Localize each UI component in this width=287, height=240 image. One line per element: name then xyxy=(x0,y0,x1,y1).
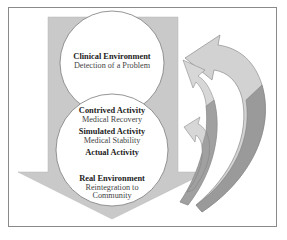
stage-simulated-activity: Simulated Activity Medical Stability xyxy=(62,128,162,145)
stage-clinical-environment: Clinical Environment Detection of a Prob… xyxy=(62,53,162,70)
stage-subtitle: Medical Stability xyxy=(62,137,162,146)
stage-real-environment: Real Environment Reintegration to Commun… xyxy=(62,175,162,201)
stage-title: Actual Activity xyxy=(62,149,162,158)
stage-subtitle: Detection of a Problem xyxy=(62,62,162,71)
stage-contrived-activity: Contrived Activity Medical Recovery xyxy=(62,107,162,124)
stage-actual-activity: Actual Activity xyxy=(62,149,162,158)
feedback-arrow-middle-shadow xyxy=(180,100,217,205)
stage-subtitle: Medical Recovery xyxy=(62,116,162,125)
stage-subtitle-line2: Community xyxy=(62,192,162,201)
